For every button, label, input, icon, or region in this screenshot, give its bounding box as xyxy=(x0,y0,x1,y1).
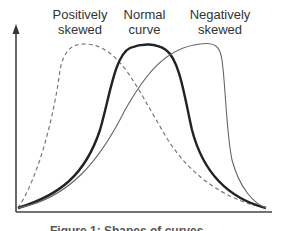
normal-curve xyxy=(18,44,266,208)
normal-curve-label: Normal curve xyxy=(112,7,177,37)
positively-skewed-label: Positively skewed xyxy=(40,7,120,37)
y-axis-arrow-icon xyxy=(13,24,20,34)
figure-caption: Figure 1: Shapes of curves xyxy=(50,224,203,231)
negatively-skewed-curve xyxy=(18,44,266,208)
positively-skewed-curve xyxy=(18,44,266,208)
negatively-skewed-label: Negatively skewed xyxy=(178,7,262,37)
